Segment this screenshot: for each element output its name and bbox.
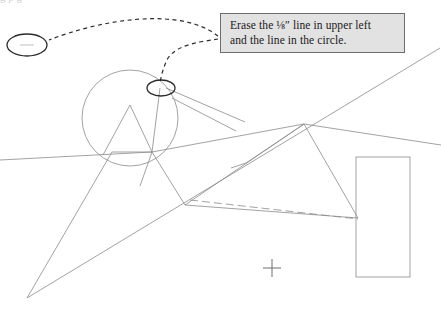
left-triangle-leg [27,152,112,298]
right-rectangle [356,157,410,277]
leader-to-circle-marker [160,39,218,84]
lower-node-to-rectangle [185,205,358,218]
leader-to-upper-left-marker [49,19,218,40]
crosshair-mark [263,259,281,277]
left-edge-line-to-hub [0,152,152,160]
callout-line-2: and the line in the circle. [230,33,398,48]
construction-lines [0,48,441,298]
hub-to-upper-right-node [152,124,304,152]
circle-to-right-line-lower [172,98,236,131]
circle-interior-ellipse-marker [147,80,175,96]
annotation-callout: Erase the ⅛″ line in upper left and the … [220,13,405,53]
figure-page: g p g [0,0,441,311]
triangle-apex-right-line [103,105,130,155]
hub-vertical-line-in-circle [152,88,160,152]
long-diagonal-line [27,48,440,298]
callout-line-1: Erase the ⅛″ line in upper left [230,18,398,33]
upper-right-node-to-right-edge [304,124,441,145]
leader-lines [49,19,218,84]
upper-right-node-to-rectangle [304,124,358,218]
markup-annotations [7,34,175,96]
hub-short-lower-left-line [140,152,152,186]
hub-to-lower-node [152,152,185,205]
left-approach-to-upper-right-node [246,124,304,163]
triangle-apex-left-line [130,105,152,152]
